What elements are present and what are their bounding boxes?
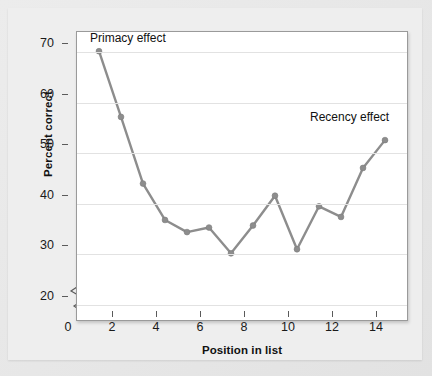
figure-container: Percent correct Position in list 2030405… — [0, 0, 432, 376]
x-tick-mark — [244, 311, 245, 317]
y-tick-label: 40 — [26, 189, 54, 201]
x-tick-label: 10 — [276, 321, 300, 333]
annotation-recency: Recency effect — [310, 110, 389, 124]
x-tick-label: 0 — [56, 321, 80, 333]
data-point — [206, 225, 212, 231]
y-tick-mark — [62, 94, 68, 95]
x-tick-label: 2 — [100, 321, 124, 333]
data-point — [338, 214, 344, 220]
x-tick-mark — [112, 311, 113, 317]
y-tick-label: 70 — [26, 37, 54, 49]
data-point — [382, 137, 388, 143]
x-tick-label: 8 — [232, 321, 256, 333]
gridline-y — [77, 204, 407, 205]
gridline-y — [77, 103, 407, 104]
data-point — [184, 229, 190, 235]
gridline-y — [77, 153, 407, 154]
serial-position-curve — [77, 32, 407, 320]
plot-area — [76, 31, 408, 321]
y-tick-mark — [62, 43, 68, 44]
y-axis-title: Percent correct — [42, 64, 54, 204]
y-tick-mark — [62, 245, 68, 246]
y-tick-mark — [62, 195, 68, 196]
data-point — [272, 193, 278, 199]
x-tick-label: 14 — [364, 321, 388, 333]
x-tick-mark — [332, 311, 333, 317]
gridline-y — [77, 305, 407, 306]
gridline-y — [77, 254, 407, 255]
data-point — [118, 114, 124, 120]
x-tick-label: 12 — [320, 321, 344, 333]
data-point — [294, 246, 300, 252]
y-tick-mark — [62, 296, 68, 297]
x-tick-mark — [200, 311, 201, 317]
data-point — [360, 165, 366, 171]
gridline-y — [77, 52, 407, 53]
x-tick-mark — [156, 311, 157, 317]
y-tick-label: 20 — [26, 290, 54, 302]
x-tick-mark — [288, 311, 289, 317]
x-axis-title: Position in list — [76, 344, 408, 356]
y-tick-label: 50 — [26, 138, 54, 150]
x-tick-mark — [376, 311, 377, 317]
y-tick-label: 60 — [26, 88, 54, 100]
figure-card: Percent correct Position in list 2030405… — [8, 8, 422, 360]
annotation-primacy: Primacy effect — [90, 31, 166, 45]
data-point — [162, 217, 168, 223]
y-tick-label: 30 — [26, 239, 54, 251]
x-tick-label: 6 — [188, 321, 212, 333]
data-point — [140, 181, 146, 187]
x-tick-label: 4 — [144, 321, 168, 333]
y-tick-mark — [62, 144, 68, 145]
data-point — [250, 223, 256, 229]
